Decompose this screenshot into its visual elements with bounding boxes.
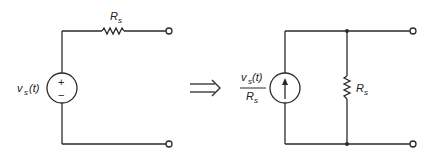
source-label-main: v	[17, 82, 24, 94]
source-label-sub: s	[24, 88, 28, 97]
resistor-icon	[344, 76, 350, 99]
fraction-den-main: R	[246, 90, 254, 102]
right-circuit: v s (t) R s R s	[240, 28, 416, 147]
source-label-arg: (t)	[29, 82, 40, 94]
terminal-icon	[410, 141, 416, 147]
fraction-num-arg: (t)	[252, 71, 263, 83]
terminal-icon	[166, 28, 172, 34]
terminal-icon	[166, 141, 172, 147]
terminal-icon	[410, 28, 416, 34]
resistor-label-sub: s	[118, 16, 122, 25]
fraction-den-sub: s	[254, 96, 258, 105]
plus-sign: +	[58, 76, 64, 88]
left-circuit: + − v s (t) R s	[17, 10, 172, 147]
minus-sign: −	[58, 89, 64, 101]
transform-arrow-icon	[190, 80, 220, 96]
circuit-diagram: + − v s (t) R s v s (t)	[0, 0, 436, 154]
resistor-label-main: R	[356, 82, 364, 94]
resistor-icon	[102, 28, 124, 34]
resistor-label-sub: s	[364, 88, 368, 97]
resistor-label-main: R	[110, 10, 118, 22]
fraction-num-main: v	[241, 71, 248, 83]
current-arrowhead-icon	[282, 78, 288, 85]
